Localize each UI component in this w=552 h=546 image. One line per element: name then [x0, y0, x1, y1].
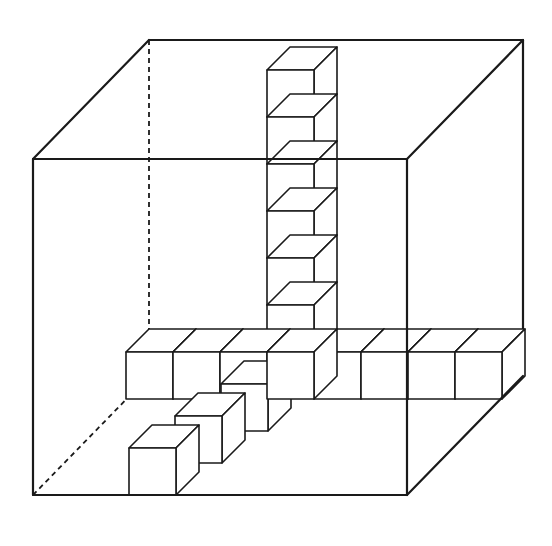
- hidden-edges: [33, 40, 149, 495]
- cube-cross-diagram: [0, 0, 552, 546]
- cube-front-face: [408, 352, 455, 399]
- cube-front-face: [126, 352, 173, 399]
- cube-front-face: [361, 352, 408, 399]
- top-right-depth-edge: [407, 40, 523, 159]
- unit-cubes: [126, 47, 525, 495]
- cube-front-face: [455, 352, 502, 399]
- unit-cube: [129, 425, 199, 495]
- diagram-canvas: [0, 0, 552, 546]
- cube-front-face: [129, 448, 176, 495]
- cube-front-face: [267, 352, 314, 399]
- top-left-depth-edge: [33, 40, 149, 159]
- cube-front-face: [173, 352, 220, 399]
